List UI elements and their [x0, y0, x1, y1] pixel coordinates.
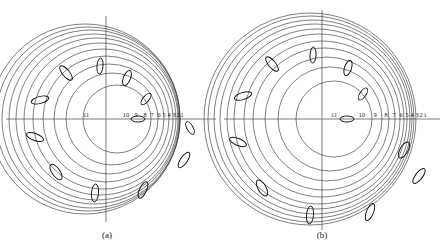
panel-a-ring-label-8: 8: [143, 111, 146, 118]
panel-a-ring-label-3: 3: [172, 111, 175, 118]
panel-b-ring-label-2: 2: [419, 111, 422, 118]
panel-a-caption: (a): [87, 230, 127, 240]
panel-b-ring-label-6: 6: [399, 111, 402, 118]
panel-a-ring-label-11: 11: [83, 111, 89, 118]
panel-b-ring-label-3: 3: [415, 111, 418, 118]
panel-b-ring-label-8: 8: [384, 111, 387, 118]
panel-a-ring-label-1: 1: [180, 111, 183, 118]
figure-background: [0, 0, 446, 249]
panel-b-ring-label-5: 5: [405, 111, 408, 118]
panel-b-ring-label-11: 11: [331, 111, 337, 118]
panel-a-ring-label-5: 5: [162, 111, 165, 118]
panel-b-ring-label-1: 1: [423, 111, 426, 118]
panel-b-ring-label-9: 9: [373, 111, 376, 118]
panel-a-ring-label-2: 2: [176, 111, 179, 118]
figure-canvas: 1110987654321 1110987654321: [0, 0, 446, 249]
panel-b-caption: (b): [302, 230, 342, 240]
panel-a-ring-label-6: 6: [157, 111, 160, 118]
panel-b-ring-label-10: 10: [359, 111, 365, 118]
panel-a-ring-label-10: 10: [123, 111, 129, 118]
